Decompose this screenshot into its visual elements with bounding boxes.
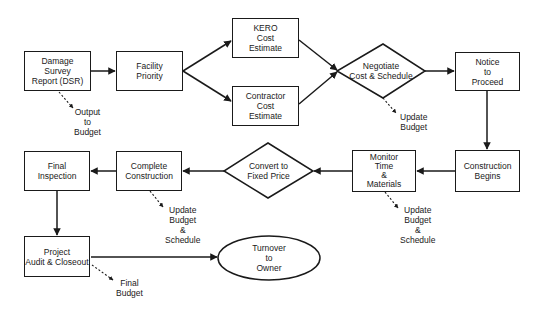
node-convert-fixed-price: Convert to Fixed Price — [224, 143, 313, 198]
note-update-budget-schedule-monitor: Update Budget & Schedule — [400, 205, 435, 245]
edge-facility-contractor — [183, 71, 231, 101]
node-damage-survey-report: Damage Survey Report (DSR) — [24, 51, 91, 91]
node-notice-to-proceed: Notice to Proceed — [455, 52, 520, 91]
node-label: Facility Priority — [136, 61, 162, 81]
edge-contractor-negotiate — [299, 72, 337, 104]
node-label: Convert to Fixed Price — [247, 161, 290, 181]
node-label: Contractor Cost Estimate — [246, 91, 286, 121]
note-final-budget: Final Budget — [116, 278, 143, 298]
node-label: Damage Survey Report (DSR) — [32, 56, 83, 86]
node-kero-cost-estimate: KERO Cost Estimate — [232, 18, 299, 58]
edge-audit-final-budget — [92, 265, 113, 280]
edge-kero-negotiate — [299, 40, 337, 70]
node-label: Negotiate Cost & Schedule — [349, 61, 412, 81]
note-output-to-budget: Output to Budget — [74, 107, 101, 137]
edge-negotiate-update — [383, 98, 396, 113]
edge-complete-update — [150, 191, 163, 207]
node-label: Complete Construction — [125, 161, 173, 181]
node-label: Notice to Proceed — [472, 57, 504, 87]
node-turnover-to-owner: Turnover to Owner — [218, 236, 320, 280]
node-label: KERO Cost Estimate — [249, 23, 282, 53]
node-label: Monitor Time & Materials — [367, 153, 401, 189]
node-label: Turnover to Owner — [252, 243, 286, 273]
node-negotiate-cost-schedule: Negotiate Cost & Schedule — [337, 44, 425, 98]
node-final-inspection: Final Inspection — [24, 151, 90, 191]
node-contractor-cost-estimate: Contractor Cost Estimate — [232, 86, 299, 126]
node-project-audit-closeout: Project Audit & Closeout — [24, 236, 90, 277]
node-label: Construction Begins — [464, 161, 512, 181]
node-construction-begins: Construction Begins — [455, 150, 520, 192]
node-facility-priority: Facility Priority — [116, 51, 183, 91]
note-update-budget-schedule-complete: Update Budget & Schedule — [165, 205, 200, 245]
edge-dsr-output — [59, 92, 73, 108]
note-update-budget-negotiate: Update Budget — [400, 112, 427, 132]
node-label: Final Inspection — [38, 161, 77, 181]
node-label: Project Audit & Closeout — [25, 247, 88, 267]
edge-monitor-update — [385, 192, 398, 208]
node-complete-construction: Complete Construction — [116, 151, 182, 191]
edge-facility-kero — [183, 41, 231, 71]
node-monitor-time-materials: Monitor Time & Materials — [352, 150, 416, 192]
